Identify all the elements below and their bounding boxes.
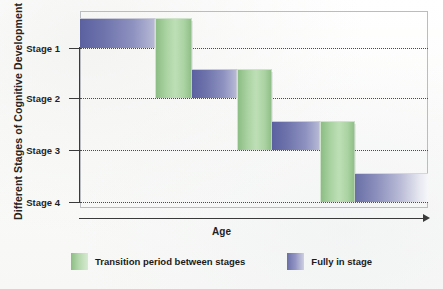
stage-bar-6 (355, 173, 428, 202)
chart-page: Different Stages of Cognitive Developmen… (0, 0, 443, 289)
stage-bar-0 (80, 18, 155, 48)
transition-bar-5 (320, 121, 355, 202)
transition-bar-1 (155, 18, 192, 98)
y-tick-label-1: Stage 1 (0, 43, 60, 54)
plot-area (80, 11, 428, 208)
y-tick-4 (69, 202, 80, 203)
transition-bar-3 (237, 69, 272, 150)
legend-label-1: Transition period between stages (95, 256, 245, 267)
y-tick-2 (69, 98, 80, 99)
gridline-1 (80, 48, 428, 49)
y-tick-label-3: Stage 3 (0, 145, 60, 156)
x-axis-line (79, 218, 425, 219)
stage-bar-2 (192, 69, 237, 98)
purple-swatch (287, 253, 304, 270)
legend-item-1[interactable]: Transition period between stages (71, 253, 245, 270)
x-axis-title: Age (0, 226, 443, 237)
x-axis-arrow-icon (423, 214, 430, 222)
legend: Transition period between stagesFully in… (0, 253, 443, 270)
legend-label-2: Fully in stage (311, 256, 372, 267)
gridline-3 (80, 150, 428, 151)
y-tick-1 (69, 48, 80, 49)
y-axis-title: Different Stages of Cognitive Developmen… (12, 8, 24, 220)
legend-item-2[interactable]: Fully in stage (287, 253, 372, 270)
y-tick-label-2: Stage 2 (0, 93, 60, 104)
gridline-4 (80, 202, 428, 203)
green-swatch (71, 253, 88, 270)
y-tick-3 (69, 150, 80, 151)
y-tick-label-4: Stage 4 (0, 197, 60, 208)
stage-bar-4 (272, 121, 320, 150)
